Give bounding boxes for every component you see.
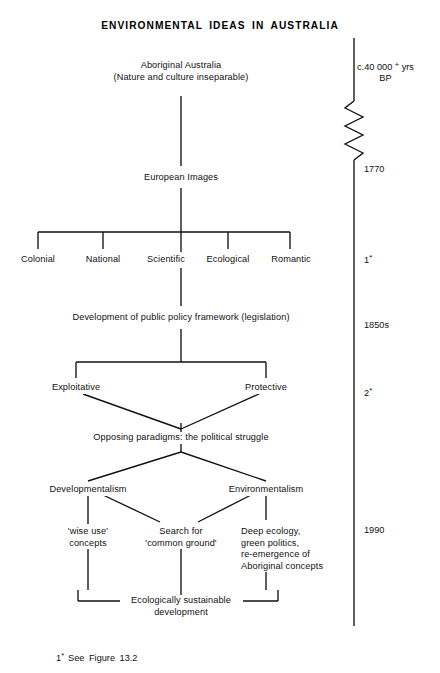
node-stream-colonial: Colonial bbox=[18, 254, 58, 266]
node-stream-scientific: Scientific bbox=[144, 254, 188, 266]
node-esd-line1: Ecologically sustainable bbox=[128, 595, 234, 607]
node-stream-national: National bbox=[83, 254, 124, 266]
node-wise-use-concepts-line2: concepts bbox=[65, 538, 111, 550]
figure-title: ENVIRONMENTAL IDEAS IN AUSTRALIA bbox=[101, 20, 339, 31]
node-esd-line2: development bbox=[128, 607, 234, 619]
node-deep-ecology-block: Deep ecology, green politics, re-emergen… bbox=[238, 526, 326, 572]
node-deep-ecology-line4: Aboriginal concepts bbox=[238, 561, 326, 573]
connector-developmentalism-to-common bbox=[101, 494, 160, 522]
figure-environmental-ideas-australia: ENVIRONMENTAL IDEAS IN AUSTRALIA Aborigi… bbox=[0, 0, 440, 673]
node-aboriginal-australia: Aboriginal Australia (Nature and culture… bbox=[111, 60, 252, 83]
node-deep-ecology-line2: green politics, bbox=[238, 538, 326, 550]
timeline-label-1850s: 1850s bbox=[364, 320, 389, 332]
timeline-label-bp-value: c.40 000 bbox=[357, 62, 395, 72]
node-environmentalism: Environmentalism bbox=[226, 484, 307, 496]
timeline-label-1770: 1770 bbox=[364, 164, 384, 176]
node-aboriginal-australia-line2: (Nature and culture inseparable) bbox=[111, 72, 252, 84]
node-european-images: European Images bbox=[141, 172, 221, 184]
node-deep-ecology-line3: re-emergence of bbox=[238, 549, 326, 561]
node-wise-use-concepts: 'wise use' concepts bbox=[65, 526, 111, 549]
figure-footnote-text: See Figure 13.2 bbox=[64, 653, 137, 663]
timeline-label-note2: 2* bbox=[364, 385, 372, 400]
node-opposing-paradigms: Opposing paradigms: the political strugg… bbox=[90, 432, 271, 444]
node-search-common-ground-line1: Search for bbox=[142, 526, 219, 538]
timeline-label-bp-line1: c.40 000 + yrs bbox=[357, 59, 414, 73]
node-stream-romantic: Romantic bbox=[268, 254, 314, 266]
connector-paradigms-to-developmental bbox=[88, 452, 181, 481]
timeline-label-bp: c.40 000 + yrs BP bbox=[357, 59, 414, 85]
diagram-connector-lines bbox=[0, 0, 440, 673]
node-search-common-ground: Search for 'common ground' bbox=[142, 526, 219, 549]
node-search-common-ground-line2: 'common ground' bbox=[142, 538, 219, 550]
timeline-label-note2-star: * bbox=[369, 386, 372, 395]
node-deep-ecology-line1: Deep ecology, bbox=[238, 526, 326, 538]
connector-protective-to-paradigms bbox=[181, 394, 259, 429]
connector-exploitative-to-paradigms bbox=[83, 394, 181, 429]
node-wise-use-concepts-line1: 'wise use' bbox=[65, 526, 111, 538]
timeline-label-note1: 1* bbox=[364, 252, 372, 267]
timeline-label-bp-line2: BP bbox=[357, 73, 414, 85]
node-ecologically-sustainable-development: Ecologically sustainable development bbox=[128, 595, 234, 618]
node-protective: Protective bbox=[242, 382, 290, 394]
timeline-label-note1-star: * bbox=[369, 253, 372, 262]
node-developmentalism: Developmentalism bbox=[46, 484, 129, 496]
timeline-break-zigzag bbox=[345, 101, 363, 160]
connector-environmentalism-to-common bbox=[198, 494, 253, 522]
node-stream-ecological: Ecological bbox=[204, 254, 253, 266]
timeline-label-bp-units: yrs bbox=[399, 62, 414, 72]
connector-paradigms-to-environmental bbox=[181, 452, 266, 481]
node-aboriginal-australia-line1: Aboriginal Australia bbox=[111, 60, 252, 72]
timeline-label-1990: 1990 bbox=[364, 525, 384, 537]
node-exploitative: Exploitative bbox=[49, 382, 103, 394]
node-policy-framework: Development of public policy framework (… bbox=[69, 312, 292, 324]
figure-footnote: 1*See Figure 13.2 bbox=[56, 651, 137, 663]
